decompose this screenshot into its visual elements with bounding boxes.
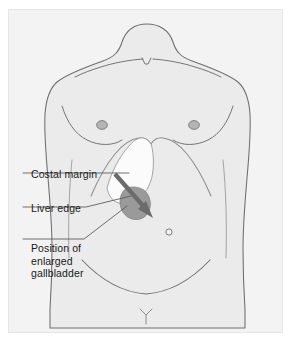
label-costal-margin: Costal margin xyxy=(31,168,97,181)
figure-container: Costal margin Liver edge Position of enl… xyxy=(0,0,291,348)
label-gallbladder-line-2: enlarged xyxy=(31,255,123,268)
label-gallbladder-line-3: gallbladder xyxy=(31,267,123,280)
umbilicus-icon xyxy=(166,229,172,235)
nipple-left xyxy=(97,121,108,130)
label-liver-edge: Liver edge xyxy=(31,202,81,215)
nipple-right xyxy=(189,121,200,130)
illustration-panel: Costal margin Liver edge Position of enl… xyxy=(8,9,283,333)
label-enlarged-gallbladder: Position of enlarged gallbladder xyxy=(31,242,123,280)
label-gallbladder-line-1: Position of xyxy=(31,242,123,255)
